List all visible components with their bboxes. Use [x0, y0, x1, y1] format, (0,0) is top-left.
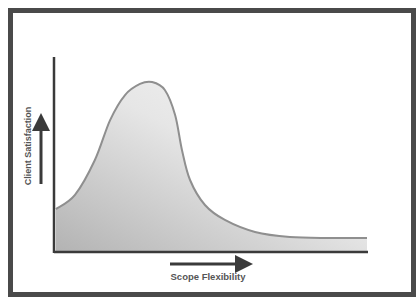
y-axis-label: Client Satisfaction	[23, 107, 33, 186]
x-axis-label: Scope Flexibility	[171, 271, 247, 282]
curve-area-fill	[56, 82, 367, 251]
chart: Scope Flexibility Client Satisfaction	[0, 0, 417, 298]
